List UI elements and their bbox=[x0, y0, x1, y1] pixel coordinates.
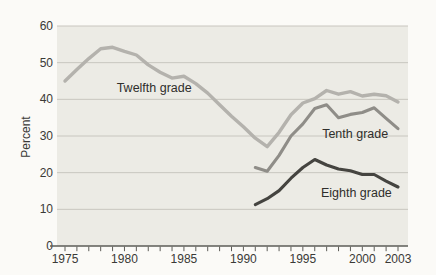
student-drug-use-line-chart: 0102030405060Percent19751980198519901995… bbox=[0, 0, 436, 275]
series-label-twelfth-grade: Twelfth grade bbox=[117, 81, 192, 95]
y-tick-label-20: 20 bbox=[40, 166, 54, 180]
scanned-figure-page: 0102030405060Percent19751980198519901995… bbox=[0, 0, 436, 275]
x-tick-label-1990: 1990 bbox=[230, 252, 257, 266]
y-tick-label-50: 50 bbox=[40, 56, 54, 70]
y-tick-label-30: 30 bbox=[40, 129, 54, 143]
y-tick-label-40: 40 bbox=[40, 92, 54, 106]
y-tick-label-10: 10 bbox=[40, 202, 54, 216]
y-axis-title: Percent bbox=[19, 116, 33, 158]
series-label-tenth-grade: Tenth grade bbox=[322, 127, 388, 141]
x-tick-label-1975: 1975 bbox=[52, 252, 79, 266]
series-label-eighth-grade: Eighth grade bbox=[321, 186, 392, 200]
x-tick-label-2003: 2003 bbox=[385, 252, 412, 266]
x-tick-label-1980: 1980 bbox=[111, 252, 138, 266]
x-tick-label-1995: 1995 bbox=[290, 252, 317, 266]
x-tick-label-2000: 2000 bbox=[349, 252, 376, 266]
x-tick-label-1985: 1985 bbox=[171, 252, 198, 266]
y-tick-label-60: 60 bbox=[40, 19, 54, 33]
